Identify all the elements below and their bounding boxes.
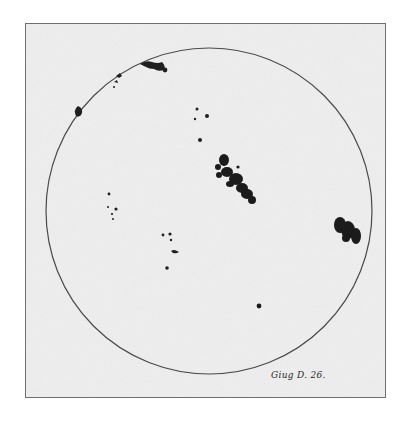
observation-date-caption: Giug D. 26. — [271, 370, 326, 380]
solar-disc-illustration — [26, 24, 386, 398]
sunspot-drawing-stage: Giug D. 26. — [0, 0, 418, 427]
drawing-frame: Giug D. 26. — [25, 23, 386, 398]
sunspot-lower-right-single — [257, 304, 262, 309]
